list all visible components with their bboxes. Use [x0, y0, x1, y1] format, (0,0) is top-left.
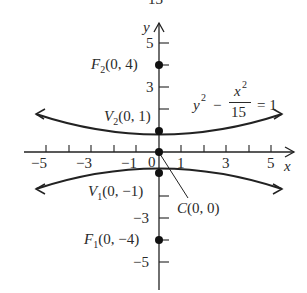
x-tick-label: 0: [148, 155, 156, 170]
hyperbola-diagram: [0, 0, 307, 293]
vertex-v1-point: [155, 169, 163, 177]
x-tick-label: 1: [177, 156, 185, 171]
vertex-v2-point: [155, 127, 163, 135]
focus-f1-point: [155, 236, 163, 244]
center-label: C(0, 0): [177, 201, 220, 216]
y-tick-label: −5: [133, 255, 149, 270]
x-tick-label: 5: [267, 156, 275, 171]
hyperbola-equation: y 2 − x 2 15 = 1: [193, 84, 303, 120]
focus-f2-point: [155, 61, 163, 69]
header-fragment: 13: [148, 0, 163, 7]
x-tick-label: −1: [121, 156, 137, 171]
x-tick-label: 3: [222, 156, 230, 171]
vertex-v1-label: V1(0, −1): [88, 184, 143, 202]
y-axis-label: y: [143, 20, 150, 35]
y-tick-label: −3: [133, 211, 149, 226]
arrow-left-icon: [36, 184, 45, 194]
arrow-right-icon: [273, 184, 282, 194]
x-axis-label: x: [284, 159, 291, 174]
center-point: [155, 148, 163, 156]
vertex-v2-label: V2(0, 1): [104, 109, 151, 127]
y-tick-label: 5: [146, 36, 154, 51]
y-tick-label: 3: [146, 80, 154, 95]
x-tick-label: −3: [76, 156, 92, 171]
focus-f2-label: F2(0, 4): [91, 57, 138, 75]
x-tick-label: −5: [31, 156, 47, 171]
focus-f1-label: F1(0, −4): [84, 232, 139, 250]
